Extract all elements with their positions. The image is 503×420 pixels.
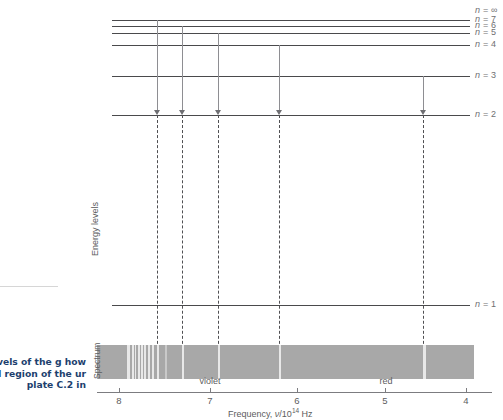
spectrum-colour-word-red: red (364, 376, 408, 386)
dropline-3 (279, 115, 280, 379)
energy-level-line-n6 (112, 26, 470, 27)
freq-tick-label-7: 7 (200, 395, 220, 406)
spectral-line-10 (182, 345, 184, 379)
spectral-line-12 (279, 345, 281, 379)
energy-level-label-n4: n = 4 (475, 39, 496, 49)
level-label-value: 5 (491, 27, 496, 37)
energy-level-line-n7 (112, 20, 470, 21)
frequency-axis-title: Frequency, ν/1014 Hz (228, 407, 313, 419)
freq-tick-8 (119, 388, 120, 392)
level-label-value: 3 (491, 70, 496, 80)
spectral-line-8 (157, 345, 159, 379)
spectral-line-11 (218, 345, 220, 379)
freq-tick-6 (297, 388, 298, 392)
spectrum-colour-word-violet: violet (188, 376, 232, 386)
energy-level-diagram: n = ∞n = 7n = 6n = 5n = 4n = 3n = 2n = 1… (0, 0, 503, 420)
energy-level-label-n1: n = 1 (475, 299, 496, 309)
energy-level-line-n1 (112, 305, 470, 306)
spectral-line-1 (132, 345, 134, 379)
energy-level-label-n2: n = 2 (475, 109, 496, 119)
energy-level-label-n5: n = 5 (475, 27, 496, 37)
dropline-2 (218, 115, 219, 379)
frequency-axis-line (97, 392, 492, 393)
freq-title-unit: Hz (299, 409, 313, 419)
transition-arrow-n3-to-n2 (423, 76, 424, 112)
energy-level-label-n3: n = 3 (475, 70, 496, 80)
spectral-line-6 (148, 345, 150, 379)
freq-tick-label-5: 5 (375, 395, 395, 406)
level-label-equals: = (480, 27, 491, 37)
freq-title-denom: /10 (279, 409, 292, 419)
spectrum-label: Spectrum (92, 343, 102, 379)
spectral-line-5 (144, 345, 146, 379)
energy-level-line-n2 (112, 115, 470, 116)
freq-tick-label-4: 4 (456, 395, 476, 406)
freq-tick-5 (385, 388, 386, 392)
energy-level-line-n5 (112, 33, 470, 34)
level-label-equals: = (480, 39, 491, 49)
spectral-line-3 (138, 345, 140, 379)
level-label-value: 2 (491, 109, 496, 119)
level-label-equals: = (480, 70, 491, 80)
spectral-line-13 (423, 345, 426, 379)
spectral-line-9 (165, 345, 167, 379)
energy-level-line-n3 (112, 76, 470, 77)
level-label-equals: = (480, 299, 491, 309)
spectral-line-0 (127, 345, 130, 379)
spectral-line-2 (135, 345, 136, 379)
spectrum-strip (97, 345, 474, 379)
level-label-value: 1 (491, 299, 496, 309)
transition-arrow-n6-to-n2 (182, 26, 183, 112)
spectral-line-4 (141, 345, 143, 379)
energy-level-line-n4 (112, 45, 470, 46)
transition-arrow-n5-to-n2 (218, 33, 219, 112)
dropline-0 (157, 115, 158, 379)
figure-caption: y levels of the g how coloured region of… (0, 356, 86, 391)
transition-arrow-n4-to-n2 (279, 45, 280, 112)
freq-title-prefix: Frequency, (228, 409, 275, 419)
transition-arrow-n7-to-n2 (157, 20, 158, 112)
freq-tick-label-6: 6 (287, 395, 307, 406)
dropline-4 (423, 115, 424, 379)
energy-axis-label: Energy levels (90, 202, 100, 256)
page-edge-rule (0, 286, 58, 287)
freq-tick-7 (210, 388, 211, 392)
level-label-value: 4 (491, 39, 496, 49)
freq-tick-4 (466, 388, 467, 392)
spectral-line-7 (152, 345, 154, 379)
freq-tick-label-8: 8 (109, 395, 129, 406)
level-label-equals: = (480, 109, 491, 119)
dropline-1 (182, 115, 183, 379)
